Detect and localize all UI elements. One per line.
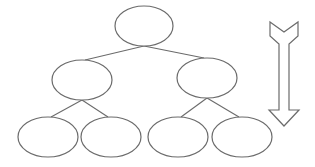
node-leaf-3 [148,117,208,157]
node-leaf-1 [18,117,78,157]
tree-nodes [18,6,272,157]
node-leaf-2 [81,117,141,157]
node-leaf-4 [212,117,272,157]
edge-mid-right-to-leaf-3 [181,98,207,117]
edge-mid-right-to-leaf-4 [207,98,239,117]
edge-mid-left-to-leaf-1 [51,100,82,117]
down-arrow-icon [269,22,299,126]
down-arrow-shape [269,22,299,126]
tree-diagram [0,0,315,167]
node-mid-left [52,60,112,100]
edge-mid-left-to-leaf-2 [82,100,108,117]
node-mid-right [177,58,237,98]
node-root [115,6,173,46]
edge-root-to-mid-left [85,46,144,60]
edge-root-to-mid-right [144,46,204,58]
